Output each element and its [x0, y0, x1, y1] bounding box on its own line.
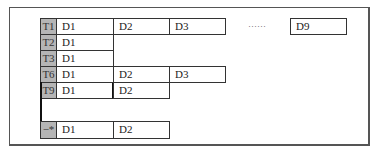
row-tag-last: −*: [40, 121, 57, 139]
row-t1-cell-d9: D9: [290, 18, 347, 35]
row-t1-cell-d1: D1: [56, 18, 114, 35]
row-tag-t2: T2: [40, 34, 57, 51]
row-t3-cell-d1: D1: [56, 50, 114, 67]
row-last-cell-d2: D2: [113, 121, 170, 139]
row-t2-cell-d1: D1: [56, 34, 114, 51]
row-t6-cell-d3: D3: [169, 66, 226, 83]
row-t6-cell-d1: D1: [56, 66, 114, 83]
row-tag-t3: T3: [40, 50, 57, 67]
ellipsis: ……: [248, 19, 266, 29]
row-t9-cell-d1: D1: [56, 82, 114, 99]
row-t1-cell-d3: D3: [169, 18, 226, 35]
row-t1-cell-d2: D2: [113, 18, 170, 35]
row-t9-cell-d2: D2: [113, 82, 170, 99]
row-tag-t1: T1: [40, 18, 57, 35]
row-tag-t9: T9: [40, 82, 57, 99]
row-last-cell-d1: D1: [56, 121, 114, 139]
row-t6-cell-d2: D2: [113, 66, 170, 83]
row-tag-t6: T6: [40, 66, 57, 83]
